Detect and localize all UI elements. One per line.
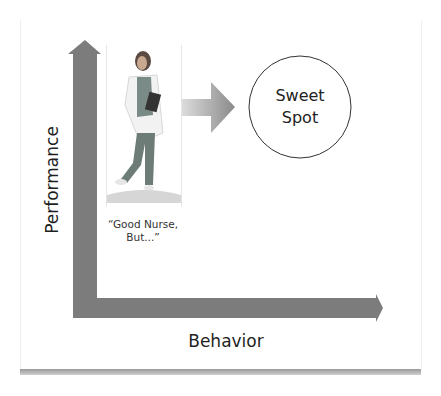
nurse-photo xyxy=(106,45,182,207)
nurse-caption: “Good Nurse, But...” xyxy=(98,218,188,244)
y-axis-label: Performance xyxy=(42,126,62,234)
nurse-figure-icon xyxy=(107,45,181,207)
x-axis-arrow xyxy=(73,294,383,322)
sweet-spot-line-2: Spot xyxy=(275,107,324,129)
sweet-spot-label: Sweet Spot xyxy=(275,85,324,129)
sweet-spot-line-1: Sweet xyxy=(275,85,324,107)
right-arrow-icon xyxy=(182,82,235,133)
caption-line-2: But...” xyxy=(98,231,188,244)
x-axis-label: Behavior xyxy=(188,331,264,351)
y-axis-arrow xyxy=(68,40,101,318)
caption-line-1: “Good Nurse, xyxy=(98,218,188,231)
